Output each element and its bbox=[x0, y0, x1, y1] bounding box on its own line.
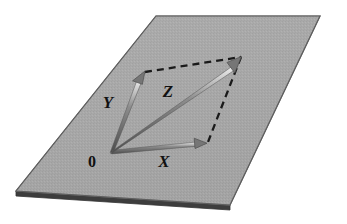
vector-y-label: Y bbox=[103, 93, 115, 112]
vector-diagram-svg: 0 X Y Z bbox=[0, 0, 347, 224]
origin-label: 0 bbox=[88, 153, 96, 170]
vector-z-label: Z bbox=[162, 82, 173, 101]
vector-diagram-figure: 0 X Y Z bbox=[0, 0, 347, 224]
vector-x-label: X bbox=[157, 152, 170, 171]
